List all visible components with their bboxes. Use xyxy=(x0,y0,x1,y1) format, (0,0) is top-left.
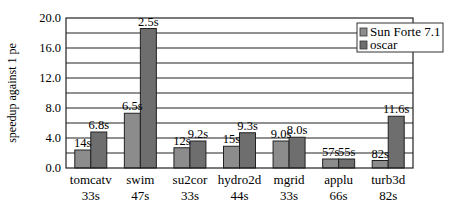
x-category-time: 33s xyxy=(280,188,298,203)
x-category-label: tomcatv xyxy=(70,172,112,187)
x-axis-categories: tomcatv33sswim47ssu2cor33shydro2d44smgri… xyxy=(70,172,406,203)
y-tick-label: 0.0 xyxy=(45,161,61,175)
x-category-time: 33s xyxy=(82,188,100,203)
x-category-time: 82s xyxy=(379,188,397,203)
legend-swatch-sun xyxy=(360,28,367,36)
bar-value-label: 2.5s xyxy=(138,15,159,29)
bar-applu-oscar xyxy=(339,159,355,168)
bar-turb3d-sun xyxy=(372,161,388,169)
bar-value-label: 14s xyxy=(74,136,92,150)
bar-su2cor-sun xyxy=(174,148,190,168)
bar-value-label: 6.8s xyxy=(89,118,110,132)
bar-swim-sun xyxy=(124,113,140,168)
legend: Sun Forte 7.1 oscar xyxy=(357,22,443,62)
x-category-time: 66s xyxy=(330,188,348,203)
y-tick-label: 16.0 xyxy=(39,41,61,55)
x-category-label: su2cor xyxy=(173,172,208,187)
bar-hydro2d-sun xyxy=(224,146,240,168)
bar-value-label: 57s xyxy=(322,145,340,159)
x-category-label: turb3d xyxy=(371,172,405,187)
legend-label-oscar: oscar xyxy=(370,37,398,52)
bar-mgrid-oscar xyxy=(289,137,305,168)
bar-tomcatv-oscar xyxy=(91,132,107,168)
bar-value-label: 82s xyxy=(372,147,390,161)
bar-swim-oscar xyxy=(140,29,156,169)
y-tick-label: 8.0 xyxy=(45,101,61,115)
x-category-time: 44s xyxy=(230,188,248,203)
y-tick-label: 12.0 xyxy=(39,71,61,85)
bar-turb3d-oscar xyxy=(388,116,404,168)
legend-swatch-oscar xyxy=(360,41,367,49)
bar-value-label: 9.2s xyxy=(188,127,209,141)
y-axis-ticks: 0.04.08.012.016.020.0 xyxy=(39,11,61,175)
bar-value-label: 15s xyxy=(223,132,241,146)
y-tick-label: 4.0 xyxy=(45,131,61,145)
y-tick-label: 20.0 xyxy=(39,11,61,25)
bar-value-label: 8.0s xyxy=(287,123,308,137)
x-category-label: hydro2d xyxy=(218,172,262,187)
bar-value-label: 55s xyxy=(338,145,356,159)
bar-mgrid-sun xyxy=(273,141,289,168)
bar-value-label: 6.5s xyxy=(122,99,143,113)
bar-su2cor-oscar xyxy=(190,141,206,168)
x-category-label: mgrid xyxy=(274,172,306,187)
bar-hydro2d-oscar xyxy=(240,133,256,168)
bar-value-label: 9.3s xyxy=(237,119,258,133)
bar-tomcatv-sun xyxy=(75,150,91,168)
x-category-label: applu xyxy=(324,172,353,187)
bar-applu-sun xyxy=(323,159,339,168)
x-category-label: swim xyxy=(126,172,154,187)
bar-value-label: 11.6s xyxy=(383,102,409,116)
x-category-time: 33s xyxy=(181,188,199,203)
bar-chart: 0.04.08.012.016.020.0 speedup against 1 … xyxy=(0,0,466,208)
y-axis-label: speedup against 1 pe xyxy=(5,43,19,143)
x-category-time: 47s xyxy=(131,188,149,203)
